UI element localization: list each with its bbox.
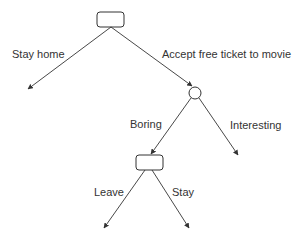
label-accept-ticket: Accept free ticket to movie [162,48,291,60]
edge-stay [152,170,189,228]
edge-leave [104,170,145,228]
decision-node-root [97,12,124,27]
decision-node-second [136,155,163,170]
label-stay-home: Stay home [12,48,65,60]
label-stay: Stay [172,186,194,198]
label-interesting: Interesting [230,119,281,131]
chance-node [189,87,201,99]
label-leave: Leave [94,186,124,198]
label-boring: Boring [130,118,162,130]
